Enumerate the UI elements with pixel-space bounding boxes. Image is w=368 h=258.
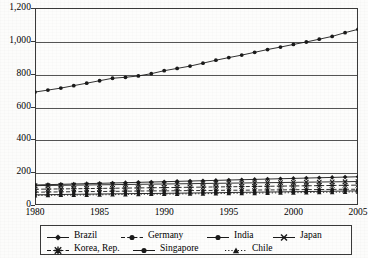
legend-marker-diamond-icon (45, 229, 71, 240)
legend-label: Germany (148, 230, 183, 240)
x-axis-tick-label: 1985 (90, 207, 109, 217)
x-axis-tick-label: 1990 (155, 207, 174, 217)
legend-label: Japan (300, 230, 322, 240)
series-india (35, 27, 358, 94)
legend-label: India (234, 230, 254, 240)
x-axis-tick-label: 1980 (26, 207, 45, 217)
x-axis-tick-label: 2005 (349, 207, 368, 217)
legend-marker-star-icon (45, 242, 71, 253)
y-axis-tick-label: 400 (0, 134, 31, 144)
chart-legend: BrazilGermanyIndiaJapan Korea, Rep.Singa… (40, 225, 352, 255)
legend-label: Singapore (160, 243, 199, 253)
y-axis-tick-label: 600 (0, 102, 31, 112)
legend-label: Chile (252, 243, 273, 253)
chart-page: 02004006008001,0001,200 1980198519901995… (0, 0, 368, 258)
legend-marker-circle-icon (119, 229, 145, 240)
y-axis-tick-mark (31, 205, 35, 206)
legend-marker-circle-icon (205, 229, 231, 240)
legend-marker-x-icon (271, 229, 297, 240)
x-axis-tick-label: 1995 (219, 207, 238, 217)
legend-item-korea-rep[interactable]: Korea, Rep. (45, 242, 131, 253)
legend-item-chile[interactable]: Chile (223, 242, 293, 253)
y-axis-tick-label: 1,000 (0, 36, 31, 46)
x-axis-tick-label: 2000 (284, 207, 303, 217)
legend-item-japan[interactable]: Japan (271, 229, 341, 240)
legend-row-2: Korea, Rep.SingaporeChile (45, 241, 347, 254)
y-axis-tick-label: 800 (0, 69, 31, 79)
y-axis-tick-label: 1,200 (0, 3, 31, 13)
legend-item-india[interactable]: India (205, 229, 271, 240)
legend-item-germany[interactable]: Germany (119, 229, 205, 240)
y-axis-tick-label: 200 (0, 167, 31, 177)
series-layer (35, 8, 358, 205)
legend-item-singapore[interactable]: Singapore (131, 242, 223, 253)
legend-label: Brazil (74, 230, 97, 240)
legend-item-brazil[interactable]: Brazil (45, 229, 119, 240)
legend-label: Korea, Rep. (74, 243, 120, 253)
legend-marker-triangle-icon (223, 242, 249, 253)
legend-marker-filled-circle-icon (131, 242, 157, 253)
legend-row-1: BrazilGermanyIndiaJapan (45, 228, 347, 241)
